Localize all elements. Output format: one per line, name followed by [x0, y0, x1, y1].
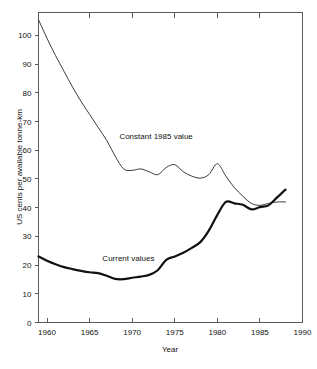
- x-axis-ticks-top: [90, 13, 260, 18]
- series-line-2: [39, 190, 286, 280]
- y-axis-ticks: [35, 35, 39, 322]
- x-tick-label: 1985: [251, 328, 269, 337]
- series-label-2: Current values: [102, 254, 154, 263]
- plot-frame: [39, 13, 303, 323]
- x-tick-label: 1975: [166, 328, 184, 337]
- frame-path: [39, 13, 303, 323]
- y-tick-label: 50: [23, 175, 32, 184]
- data-series-group: [39, 20, 286, 280]
- y-tick-label: 100: [18, 31, 32, 40]
- series-annotations: Constant 1985 valueCurrent values: [102, 132, 193, 263]
- line-chart: 1960196519701975198019851990 01020304050…: [0, 0, 317, 369]
- y-tick-label: 40: [23, 204, 32, 213]
- x-axis-tick-labels: 1960196519701975198019851990: [38, 328, 312, 337]
- x-tick-label: 1960: [38, 328, 56, 337]
- y-tick-label: 20: [23, 261, 32, 270]
- x-tick-label: 1990: [294, 328, 312, 337]
- x-axis-ticks-bottom: [47, 318, 302, 323]
- series-line-1: [39, 20, 286, 206]
- series-label-1: Constant 1985 value: [119, 132, 193, 141]
- x-axis-title: Year: [162, 345, 179, 354]
- y-tick-label: 60: [23, 146, 32, 155]
- chart-figure: 1960196519701975198019851990 01020304050…: [0, 0, 317, 369]
- y-tick-label: 10: [23, 290, 32, 299]
- x-tick-label: 1970: [123, 328, 141, 337]
- y-tick-label: 90: [23, 60, 32, 69]
- x-tick-label: 1980: [208, 328, 226, 337]
- y-tick-label: 70: [23, 118, 32, 127]
- y-tick-label: 30: [23, 232, 32, 241]
- y-axis-title: US cents per available tonne-km: [15, 109, 24, 225]
- y-tick-label: 80: [23, 89, 32, 98]
- x-tick-label: 1965: [81, 328, 99, 337]
- y-tick-label: 0: [27, 319, 32, 328]
